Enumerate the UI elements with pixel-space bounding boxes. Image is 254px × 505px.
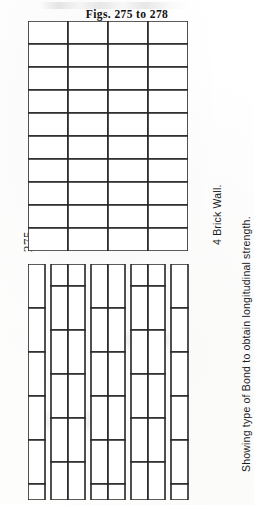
brick-bottom-c3-right [171,308,188,352]
brick-bottom-c1-left [68,418,85,462]
brick-bottom-c0-left [28,264,45,308]
brick-top-r7-c0 [28,182,68,205]
brick-top-r9-c0 [28,228,68,251]
brick-bottom-c0-right [51,286,68,330]
brick-top-r2-c2 [108,67,148,90]
brick-bottom-c3-left [148,418,165,462]
brick-bottom-c2-left [108,264,125,308]
brick-top-r2-c1 [68,67,108,90]
brick-bottom-c0-left [28,396,45,440]
brick-top-r4-c2 [108,113,148,136]
brick-bottom-c2-right [131,462,148,500]
brick-bottom-c0-right [51,330,68,374]
brick-bottom-c3-left [148,462,165,500]
brick-bottom-c1-right [91,440,108,484]
wall-title-label: 4 Brick Wall. [211,184,223,245]
brick-top-r0-c3 [148,21,188,44]
brick-bottom-c0-left [28,484,45,500]
brick-top-r1-c2 [108,44,148,67]
brick-bottom-c1-right [91,308,108,352]
brick-top-r5-c0 [28,136,68,159]
brick-bottom-c2-left [108,484,125,500]
brick-top-r6-c3 [148,159,188,182]
brick-top-r1-c0 [28,44,68,67]
brick-bottom-c0-right [51,418,68,462]
brick-top-r3-c0 [28,90,68,113]
brick-top-r8-c2 [108,205,148,228]
brick-bottom-c3-right [171,396,188,440]
brick-bottom-c0-left [28,440,45,484]
brick-top-r0-c0 [28,21,68,44]
brick-top-r7-c3 [148,182,188,205]
brick-bottom-c0-right [51,264,68,286]
brick-bottom-c0-right [51,374,68,418]
brick-top-r0-c1 [68,21,108,44]
brick-top-r7-c1 [68,182,108,205]
brick-top-r5-c2 [108,136,148,159]
brick-bottom-c2-left [108,352,125,396]
brick-top-r1-c1 [68,44,108,67]
brick-top-r1-c3 [148,44,188,67]
brick-top-r2-c3 [148,67,188,90]
brick-bottom-c2-right [131,418,148,462]
brick-top-r6-c0 [28,159,68,182]
brick-top-r0-c2 [108,21,148,44]
brick-top-r3-c2 [108,90,148,113]
brick-top-r5-c3 [148,136,188,159]
brick-top-r3-c3 [148,90,188,113]
stretcher-grid-bricks [28,21,188,251]
brick-top-r4-c1 [68,113,108,136]
brick-top-r9-c1 [68,228,108,251]
brick-top-r6-c2 [108,159,148,182]
longitudinal-bond-svg [28,264,190,500]
brick-bottom-c1-left [68,374,85,418]
brick-top-r6-c1 [68,159,108,182]
brick-bottom-c2-right [131,286,148,330]
brick-bottom-c3-right [171,484,188,500]
brick-top-r3-c1 [68,90,108,113]
brick-top-r2-c0 [28,67,68,90]
brick-diagram-top-plan [28,21,188,251]
brick-bottom-c3-left [148,286,165,330]
brick-bottom-c3-right [171,440,188,484]
brick-bottom-c1-right [91,484,108,500]
stretcher-grid-svg [28,21,188,251]
brick-bottom-c2-left [108,440,125,484]
brick-bottom-c0-left [28,308,45,352]
brick-bottom-c3-left [148,264,165,286]
brick-bottom-c1-right [91,352,108,396]
brick-top-r9-c3 [148,228,188,251]
brick-top-r8-c1 [68,205,108,228]
brick-bottom-c0-right [51,462,68,500]
brick-bottom-c1-left [68,286,85,330]
brick-bottom-c3-right [171,352,188,396]
brick-top-r8-c0 [28,205,68,228]
brick-bottom-c1-right [91,264,108,308]
brick-bottom-c3-left [148,374,165,418]
brick-top-r9-c2 [108,228,148,251]
brick-diagram-bottom-plan [28,264,190,500]
brick-top-r8-c3 [148,205,188,228]
brick-bottom-c1-left [68,462,85,500]
brick-bottom-c1-left [68,330,85,374]
brick-bottom-c3-left [148,330,165,374]
wall-subtitle-label: Showing type of Bond to obtain longitudi… [240,216,252,472]
brick-top-r4-c0 [28,113,68,136]
brick-bottom-c2-right [131,264,148,286]
brick-bottom-c2-right [131,374,148,418]
brick-bottom-c3-right [171,264,188,308]
brick-bottom-c2-left [108,308,125,352]
brick-bottom-c1-right [91,396,108,440]
brick-bottom-c2-left [108,396,125,440]
brick-top-r7-c2 [108,182,148,205]
longitudinal-bond-bricks [28,264,188,500]
brick-bottom-c2-right [131,330,148,374]
figs-caption: Figs. 275 to 278 [0,8,254,20]
brick-top-r4-c3 [148,113,188,136]
brick-bottom-c0-left [28,352,45,396]
brick-bottom-c1-left [68,264,85,286]
brick-top-r5-c1 [68,136,108,159]
